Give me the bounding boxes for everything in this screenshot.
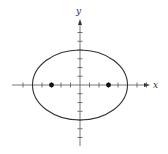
x-axis-label: x: [153, 80, 158, 90]
focus-point: [106, 83, 111, 88]
x-axis-arrow-icon: [144, 83, 150, 87]
ellipse-diagram: x y: [0, 0, 168, 154]
y-axis-label: y: [75, 6, 82, 16]
y-axis-arrow-icon: [78, 19, 82, 25]
focus-point: [49, 83, 54, 88]
